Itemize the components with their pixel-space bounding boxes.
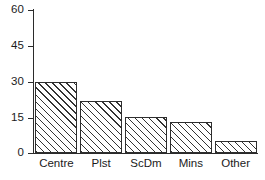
bar-centre	[35, 82, 77, 154]
x-tick-label-plst: Plst	[79, 158, 124, 170]
bar-other	[215, 141, 257, 153]
x-tick-label-mins: Mins	[168, 158, 213, 170]
x-tick-label-other: Other	[213, 158, 258, 170]
x-tick-label-scdm: ScDm	[124, 158, 169, 170]
bar-scdm	[125, 117, 167, 153]
bar-chart: 60 45 30 15 0 CentrePlstScDmMinsOther	[0, 0, 265, 180]
x-tick-label-centre: Centre	[34, 158, 79, 170]
bars-layer: CentrePlstScDmMinsOther	[0, 0, 265, 180]
bar-mins	[170, 122, 212, 153]
bar-plst	[80, 101, 122, 153]
